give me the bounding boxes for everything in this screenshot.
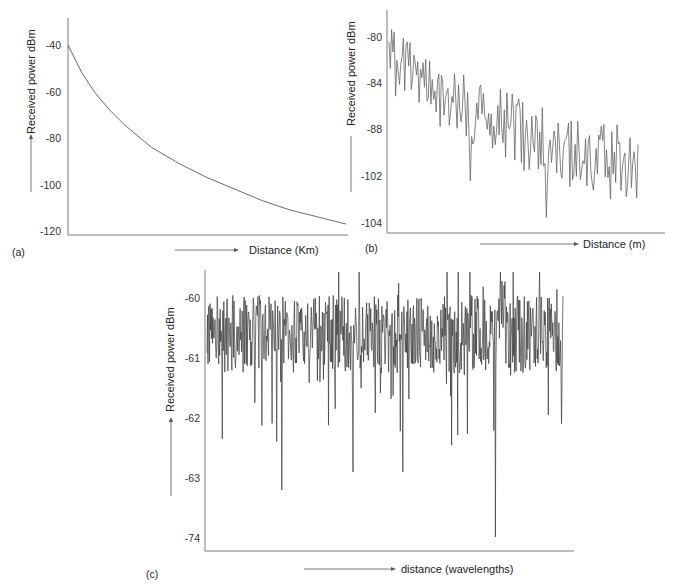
chart-c-ytick: -61 (185, 352, 200, 364)
chart-b-line (389, 30, 638, 218)
chart-a-ytick: -60 (46, 86, 61, 98)
chart-b-ylabel: Received power dBm (345, 21, 357, 126)
chart-a-ytick: -40 (46, 39, 61, 51)
chart-a-ytick: -120 (40, 225, 61, 237)
chart-a-line (68, 45, 346, 224)
chart-b-xlabel: Distance (m) (583, 238, 645, 250)
chart-b-ytick: -84 (367, 77, 382, 89)
chart-b-ytick: -88 (367, 123, 382, 135)
panel-label-c: (c) (146, 568, 158, 580)
chart-b-xlabel-arrowhead-icon (574, 242, 579, 246)
figure: -40 -60 -80 -100 -120 Received power dBm… (0, 0, 674, 587)
chart-b: -80 -84 -88 -102 -104 Received power dBm… (345, 10, 665, 254)
chart-a: -40 -60 -80 -100 -120 Received power dBm… (12, 18, 348, 258)
panel-label-a: (a) (12, 246, 25, 258)
chart-c-line (207, 272, 563, 537)
chart-c: -60 -61 -62 -63 -74 Received power dBm d… (146, 270, 574, 580)
chart-a-xlabel-arrowhead-icon (234, 248, 239, 252)
chart-a-ylabel: Received power dBm (25, 29, 37, 134)
chart-c-ylabel: Received power dBm (164, 307, 176, 412)
chart-c-ytick: -60 (185, 292, 200, 304)
chart-a-ytick: -100 (40, 179, 61, 191)
chart-c-xlabel-arrowhead-icon (391, 567, 396, 571)
panel-label-b: (b) (365, 242, 378, 254)
chart-a-ytick: -80 (46, 132, 61, 144)
chart-c-ylabel-arrowhead-icon (169, 417, 173, 422)
chart-c-xlabel: distance (wavelengths) (401, 563, 514, 575)
chart-b-ytick: -102 (361, 170, 382, 182)
chart-c-ytick: -74 (185, 532, 200, 544)
chart-c-ytick: -62 (185, 412, 200, 424)
chart-a-xlabel: Distance (Km) (249, 244, 319, 256)
chart-b-ytick: -104 (361, 217, 382, 229)
chart-b-ytick: -80 (367, 31, 382, 43)
chart-c-ytick: -63 (185, 472, 200, 484)
